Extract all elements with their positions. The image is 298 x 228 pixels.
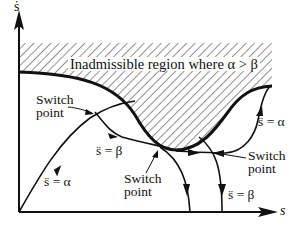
y-axis-label: ṡ [14, 0, 19, 14]
switch-point-mid-line2: point [124, 185, 152, 199]
x-axis-label: s [280, 204, 285, 218]
accel-left-label: s̈ = α [44, 175, 71, 189]
arrow-icon [218, 184, 226, 196]
arrow-icon [85, 109, 94, 115]
switch-point-left-line2: point [36, 106, 64, 120]
arrow-icon [152, 150, 158, 158]
inadmissible-region-label: Inadmissible region where α > β [68, 57, 260, 71]
arrow-icon [188, 149, 200, 156]
decel-right-label: s̈ = β [228, 188, 255, 202]
arrow-icon [183, 184, 190, 196]
switch-pointer-right [222, 154, 246, 158]
phase-plane-diagram: ṡ s Inadmissible region where α > β Swit… [0, 0, 298, 228]
switch-point-right-line2: point [248, 162, 276, 176]
decel-mid-label: s̈ = β [96, 144, 123, 158]
decel-trajectory-down-1 [160, 147, 190, 212]
decel-trajectory-down-2 [199, 137, 222, 212]
accel-right-label: s̈ = α [258, 115, 285, 129]
